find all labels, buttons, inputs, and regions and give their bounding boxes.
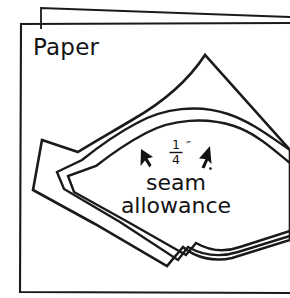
arrow-pointing-up-right [199, 146, 212, 170]
figure-canvas: 1 4 ″ seam allowance Paper [0, 0, 290, 298]
fraction-denominator: 4 [172, 152, 180, 167]
arrow-up-right-icon [199, 146, 212, 169]
arrow-pointing-up-left [141, 149, 154, 168]
arrow-up-left-icon [141, 149, 154, 168]
paper-label: Paper [33, 34, 99, 60]
pattern-outer-cutting-line [33, 55, 290, 266]
measurement-fraction: 1 4 ″ [170, 137, 192, 167]
back-sheet-edge [41, 8, 290, 29]
fraction-numerator: 1 [172, 137, 180, 152]
inch-unit-mark: ″ [186, 138, 191, 153]
seam-allowance-figure: 1 4 ″ seam allowance Paper [0, 0, 290, 298]
arrow-tick-dot-icon [209, 167, 212, 170]
seam-label: seam [146, 170, 206, 195]
allowance-label: allowance [121, 193, 231, 218]
